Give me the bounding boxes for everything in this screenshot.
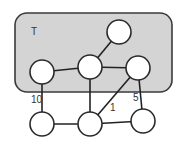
edge-weight-5: 5 (133, 92, 139, 103)
node-t-right (126, 56, 150, 80)
node-t-top (107, 20, 131, 44)
region-label: T (31, 26, 37, 37)
graph-diagram: T 10 1 5 (0, 0, 184, 145)
node-b-right (131, 109, 155, 133)
node-t-left (30, 60, 54, 84)
node-t-mid (78, 55, 102, 79)
edge-weight-10: 10 (31, 94, 43, 105)
edge-weight-1: 1 (110, 102, 116, 113)
node-b-mid (78, 112, 102, 136)
node-b-left (30, 112, 54, 136)
